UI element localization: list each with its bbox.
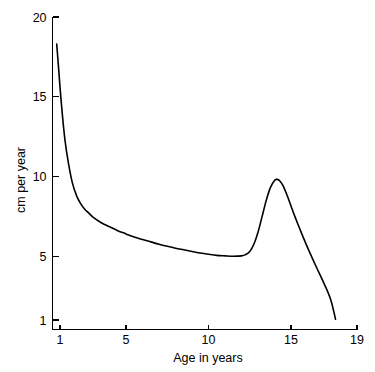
y-axis-tick-labels: 15101520 bbox=[33, 11, 47, 328]
data-series-group bbox=[57, 44, 336, 319]
axes bbox=[53, 17, 357, 330]
x-axis-title: Age in years bbox=[173, 351, 242, 365]
y-axis-title: cm per year bbox=[14, 147, 28, 213]
x-tick-label: 5 bbox=[123, 333, 130, 347]
y-tick-label: 20 bbox=[33, 11, 47, 25]
x-tick-label: 10 bbox=[202, 333, 216, 347]
x-tick-label: 1 bbox=[57, 333, 64, 347]
growth-velocity-chart: 15101519 15101520 Age in years cm per ye… bbox=[0, 0, 375, 372]
x-axis-tick-labels: 15101519 bbox=[57, 333, 364, 347]
y-tick-label: 1 bbox=[40, 314, 47, 328]
y-tick-label: 10 bbox=[33, 170, 47, 184]
data-curve bbox=[57, 44, 336, 319]
x-axis-ticks bbox=[60, 325, 357, 330]
x-tick-label: 15 bbox=[284, 333, 298, 347]
y-tick-label: 15 bbox=[33, 90, 47, 104]
x-tick-label: 19 bbox=[350, 333, 364, 347]
y-tick-label: 5 bbox=[40, 250, 47, 264]
chart-plot-area: 15101519 15101520 Age in years cm per ye… bbox=[0, 0, 375, 372]
